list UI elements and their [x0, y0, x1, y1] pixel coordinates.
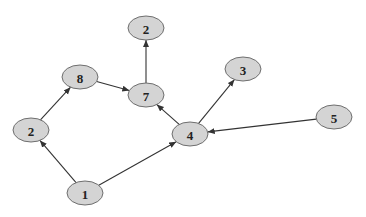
node-label: 2 — [143, 22, 150, 37]
graph-node-n3: 3 — [225, 57, 261, 81]
graph-node-n1: 1 — [67, 181, 103, 205]
edge-4-to-3 — [199, 80, 235, 124]
edge-2-to-8 — [40, 87, 70, 120]
nodes-layer: 28732451 — [13, 16, 352, 205]
edge-1-to-2 — [40, 140, 76, 182]
edge-4-to-7 — [157, 105, 179, 125]
graph-node-n5: 5 — [316, 105, 352, 129]
edge-1-to-4 — [99, 142, 176, 186]
edge-5-to-4 — [208, 119, 317, 132]
node-label: 1 — [82, 187, 89, 202]
graph-node-n4: 4 — [172, 122, 208, 146]
graph-node-n7: 7 — [128, 83, 164, 107]
node-label: 5 — [331, 111, 338, 126]
graph-node-n2left: 2 — [13, 118, 49, 142]
graph-node-n8: 8 — [62, 65, 98, 89]
graph-canvas: 28732451 — [0, 0, 366, 217]
node-label: 7 — [143, 89, 150, 104]
edges-layer — [40, 40, 316, 185]
edge-8-to-7 — [97, 82, 130, 91]
node-label: 3 — [240, 63, 247, 78]
graph-node-n2top: 2 — [128, 16, 164, 40]
node-label: 4 — [187, 128, 194, 143]
node-label: 2 — [28, 124, 35, 139]
node-label: 8 — [77, 71, 84, 86]
